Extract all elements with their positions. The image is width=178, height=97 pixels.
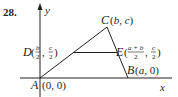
paren-open: ( xyxy=(31,46,35,59)
point-A-name: A xyxy=(30,78,39,92)
y-axis-label: y xyxy=(44,4,50,16)
comma: , xyxy=(145,46,148,58)
D-x-denominator: 2 xyxy=(36,53,40,61)
D-y-numerator: c xyxy=(49,44,53,52)
x-axis-label: x xyxy=(159,81,165,93)
label-E: E ( a + b 2 , c 2 ) xyxy=(115,44,161,61)
point-B-name: B xyxy=(127,63,135,77)
point-C-name: C xyxy=(101,13,110,27)
point-C-coords: (b, c) xyxy=(110,14,134,27)
E-y-numerator: c xyxy=(152,44,156,52)
coordinate-diagram: y x C (b, c) D ( b 2 , c 2 ) xyxy=(0,0,178,97)
paren-close: ) xyxy=(157,46,161,59)
trapezoid-figure: 28. y x C (b, c) D ( b 2 , c xyxy=(0,0,178,97)
label-A: A (0, 0) xyxy=(30,78,66,92)
E-y-denominator: 2 xyxy=(152,53,156,61)
problem-number: 28. xyxy=(3,6,17,18)
D-x-numerator: b xyxy=(36,44,40,52)
point-B-coords: (a, 0) xyxy=(135,64,159,77)
label-C: C (b, c) xyxy=(101,13,134,27)
comma: , xyxy=(42,46,45,58)
E-x-numerator: a + b xyxy=(128,44,144,52)
label-B: B (a, 0) xyxy=(127,63,159,77)
y-axis-arrow-icon xyxy=(38,3,43,10)
point-A-coords: (0, 0) xyxy=(42,79,66,92)
D-y-denominator: 2 xyxy=(49,53,53,61)
E-x-denominator: 2 xyxy=(134,53,138,61)
point-E-name: E xyxy=(115,45,124,59)
paren-close: ) xyxy=(54,46,58,59)
